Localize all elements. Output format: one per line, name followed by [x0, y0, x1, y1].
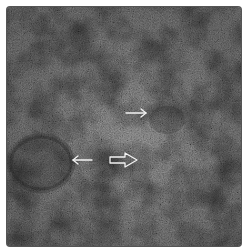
micrograph-texture	[7, 7, 241, 246]
micrograph-image	[7, 7, 241, 246]
